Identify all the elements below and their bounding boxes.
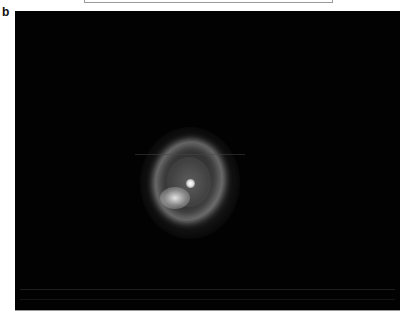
- detector-streak: [20, 289, 395, 290]
- previous-panel-border: [84, 0, 333, 3]
- astronomical-image: [15, 11, 400, 311]
- panel-label: b: [2, 5, 9, 19]
- detector-streak: [135, 154, 245, 155]
- detector-streak: [20, 299, 395, 300]
- nebula-bright-rim: [160, 187, 190, 209]
- central-star: [186, 179, 195, 188]
